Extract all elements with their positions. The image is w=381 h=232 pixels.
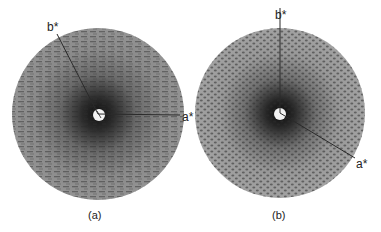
caption-a: (a) (88, 209, 101, 221)
label-a-star-b: a* (356, 157, 368, 171)
diffraction-figure: b* a* (a) b* a* (b) (0, 0, 381, 232)
panel-a: b* a* (a) (12, 20, 194, 221)
panel-b: b* a* (b) (195, 8, 368, 221)
caption-b: (b) (272, 209, 285, 221)
label-b-star-a: b* (47, 20, 59, 34)
label-b-star-b: b* (275, 8, 287, 22)
label-a-star-a: a* (182, 110, 194, 124)
